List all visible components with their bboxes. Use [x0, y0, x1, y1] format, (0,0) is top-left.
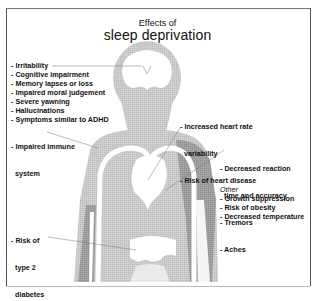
list-item: - Impaired immune: [11, 142, 75, 151]
list-item: - Decreased temperature: [220, 212, 304, 221]
list-item: - Impaired moral judgement: [11, 88, 109, 97]
list-item: - Aches: [220, 245, 291, 254]
list-item: - Memory lapses or loss: [11, 79, 109, 88]
list-item: system: [11, 169, 75, 178]
list-item: - Hallucinations: [11, 106, 109, 115]
list-item: - Severe yawning: [11, 97, 109, 106]
immune-effects-list: - Impaired immune system: [11, 124, 75, 187]
other-heading: Other: [220, 185, 304, 194]
head-icon: [113, 41, 181, 132]
other-effects-list: Other - Growth suppression - Risk of obe…: [220, 185, 304, 221]
list-item: - Decreased reaction: [220, 164, 291, 173]
list-item: - Symptoms similar to ADHD: [11, 115, 109, 124]
list-item: - Risk of obesity: [220, 203, 304, 212]
list-item: - Cognitive impairment: [11, 70, 109, 79]
diabetes-effects-list: - Risk of type 2 diabetes: [11, 218, 44, 301]
list-item: type 2: [11, 263, 44, 272]
list-item: - Increased heart rate: [180, 122, 256, 131]
list-item: - Risk of: [11, 236, 44, 245]
brain-icon: [122, 50, 172, 90]
list-item: - Irritability: [11, 61, 109, 70]
list-item: - Growth suppression: [220, 194, 304, 203]
brain-effects-list: - Irritability - Cognitive impairment - …: [11, 61, 109, 124]
list-item: diabetes: [11, 290, 44, 299]
